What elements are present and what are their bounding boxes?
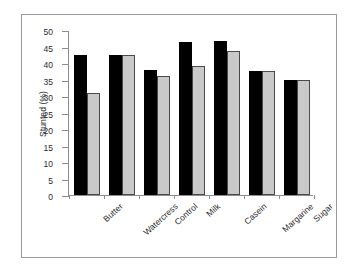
y-axis-tick: 15 — [62, 147, 69, 148]
y-axis-tick-label: 20 — [44, 127, 53, 136]
bar — [227, 51, 240, 195]
y-axis-tick-label: 35 — [44, 77, 53, 86]
y-axis-tick: 45 — [62, 48, 69, 49]
bar — [297, 80, 310, 196]
bar — [214, 41, 227, 195]
x-axis-tick — [314, 195, 315, 199]
bar — [284, 80, 297, 196]
y-axis-tick-label: 10 — [44, 160, 53, 169]
x-axis-tick — [139, 195, 140, 199]
bar-group — [109, 31, 135, 195]
bar — [262, 71, 275, 195]
bar-group — [144, 31, 170, 195]
x-axis-tick — [69, 195, 70, 199]
y-axis-tick: 25 — [62, 114, 69, 115]
bar — [144, 70, 157, 195]
y-axis-tick: 35 — [62, 81, 69, 82]
y-axis-tick: 50 — [62, 31, 69, 32]
chart-figure: Stunted (%) 05101520253035404550ButterWa… — [0, 0, 354, 271]
y-axis-tick: 10 — [62, 163, 69, 164]
y-axis-tick-label: 5 — [48, 176, 53, 185]
bar — [109, 55, 122, 195]
bar — [87, 93, 100, 195]
y-axis-tick-label: 25 — [44, 110, 53, 119]
x-axis-tick — [104, 195, 105, 199]
y-axis-tick-label: 45 — [44, 44, 53, 53]
x-axis-tick — [244, 195, 245, 199]
y-axis-tick-label: 0 — [48, 193, 53, 202]
x-axis-tick — [279, 195, 280, 199]
bar-group — [214, 31, 240, 195]
bar-group — [249, 31, 275, 195]
bar-group — [284, 31, 310, 195]
bar — [192, 66, 205, 195]
x-axis-tick — [209, 195, 210, 199]
bar-group — [179, 31, 205, 195]
x-axis-tick — [174, 195, 175, 199]
y-axis-tick: 0 — [62, 196, 69, 197]
y-axis-tick-label: 40 — [44, 61, 53, 70]
bar — [179, 42, 192, 195]
y-axis-tick-label: 15 — [44, 143, 53, 152]
y-axis-tick: 30 — [62, 97, 69, 98]
bar — [157, 76, 170, 195]
plot-area: 05101520253035404550ButterWatercressCont… — [68, 31, 313, 196]
bar — [249, 71, 262, 195]
y-axis-tick: 40 — [62, 64, 69, 65]
bar — [74, 55, 87, 195]
y-axis-tick: 5 — [62, 180, 69, 181]
bar — [122, 55, 135, 195]
y-axis-tick-label: 30 — [44, 94, 53, 103]
bar-group — [74, 31, 100, 195]
y-axis-tick: 20 — [62, 130, 69, 131]
y-axis-tick-label: 50 — [44, 28, 53, 37]
